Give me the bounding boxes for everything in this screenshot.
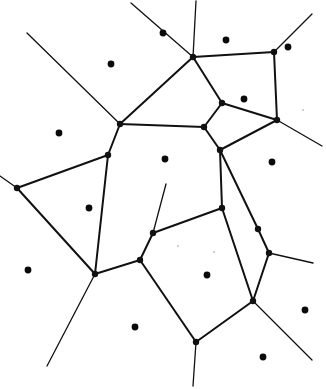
voronoi-site <box>204 272 211 279</box>
voronoi-vertex <box>266 250 272 256</box>
voronoi-vertex <box>219 205 225 211</box>
voronoi-site <box>108 61 115 68</box>
voronoi-vertex <box>117 121 123 127</box>
voronoi-canvas <box>0 0 326 389</box>
voronoi-site <box>132 324 139 331</box>
voronoi-vertex <box>250 298 256 304</box>
voronoi-vertex <box>14 185 20 191</box>
voronoi-site <box>86 205 93 212</box>
voronoi-site <box>25 267 32 274</box>
voronoi-site <box>223 37 230 44</box>
voronoi-figure <box>0 0 326 389</box>
voronoi-site <box>162 156 169 163</box>
voronoi-site <box>241 96 248 103</box>
voronoi-vertex <box>193 339 199 345</box>
voronoi-site <box>302 307 309 314</box>
voronoi-vertex <box>105 152 111 158</box>
voronoi-site <box>269 159 276 166</box>
voronoi-site <box>260 354 267 361</box>
paper-speck <box>213 251 215 253</box>
paper-speck <box>177 245 179 247</box>
voronoi-vertex <box>137 257 143 263</box>
voronoi-vertex <box>271 49 277 55</box>
voronoi-site <box>160 30 167 37</box>
voronoi-vertex <box>150 230 156 236</box>
paper-speck <box>302 109 304 111</box>
voronoi-vertex <box>190 54 196 60</box>
voronoi-vertex <box>201 124 207 130</box>
voronoi-vertex <box>92 271 98 277</box>
voronoi-vertex <box>217 147 223 153</box>
voronoi-site <box>56 130 63 137</box>
voronoi-vertex <box>219 100 225 106</box>
voronoi-site <box>285 44 292 51</box>
voronoi-vertex <box>274 117 280 123</box>
voronoi-vertex <box>255 226 261 232</box>
